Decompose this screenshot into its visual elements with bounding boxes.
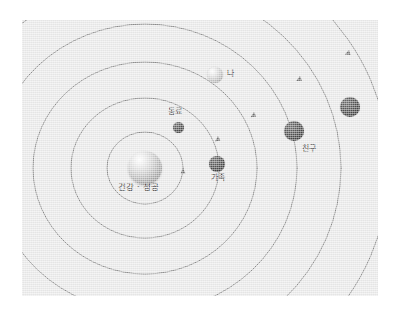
- body-chingu: [284, 121, 304, 141]
- label-gajok: 가족: [211, 174, 225, 182]
- label-chingu: 친구: [302, 145, 316, 153]
- center-label: 건강 · 성공: [118, 183, 159, 192]
- direction-arrow-icon: [181, 168, 186, 173]
- direction-arrow-icon: [296, 76, 302, 81]
- body-outer: [340, 97, 360, 117]
- orbit-direction-arrows: [181, 50, 351, 173]
- orbit-ring-6: [22, 20, 378, 296]
- diagram-canvas: 건강 · 성공 동료 가족 나 친구: [0, 0, 402, 314]
- orbit-paths: [22, 20, 378, 296]
- body-gajok: [209, 156, 225, 172]
- label-dongryo: 동료: [168, 108, 182, 116]
- body-dongryo: [173, 122, 184, 133]
- body-na: [207, 67, 223, 83]
- direction-arrow-icon: [215, 136, 220, 142]
- center-sphere: [128, 151, 162, 185]
- direction-arrow-icon: [345, 50, 351, 55]
- label-na: 나: [227, 70, 234, 78]
- diagram-panel: 건강 · 성공 동료 가족 나 친구: [22, 20, 378, 296]
- direction-arrow-icon: [251, 112, 257, 117]
